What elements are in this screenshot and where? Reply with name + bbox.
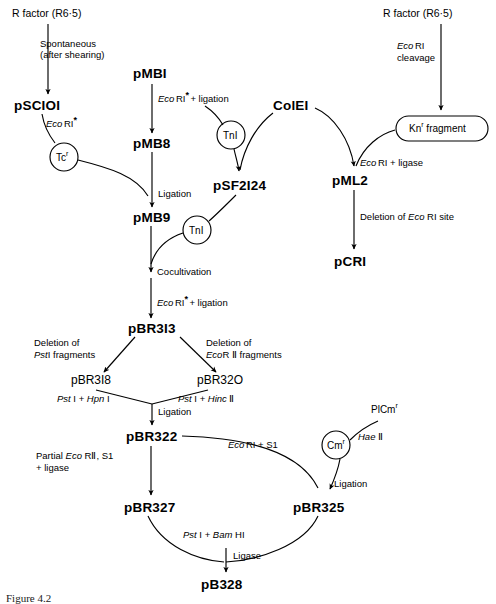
edge-label-ligase-bottom: Ligase — [233, 550, 261, 561]
edge-pbr313-to-pbr318 — [104, 337, 135, 372]
psti-hpn1-hpn: Hpn — [87, 393, 104, 404]
node-pbr325: pBR325 — [293, 500, 345, 515]
node-pml2: pML2 — [332, 173, 368, 188]
edge-label-ecori-star-a: EcoRI* — [46, 115, 77, 128]
partial-ligase: + ligase — [36, 462, 69, 473]
del-ecori-site-eco: Eco — [408, 211, 424, 222]
bubble-tn1-upper-label: TnI — [223, 130, 237, 141]
plcmr-base: PlCm — [371, 404, 395, 415]
edge-label-ecori-star-ligation-2: EcoRI*+ ligation — [157, 294, 228, 307]
node-pmb8: pMB8 — [133, 136, 171, 151]
label-plcmr: PlCmr — [371, 402, 398, 415]
ecori-ligase-eco: Eco — [360, 157, 376, 168]
svg-text:Hae Ⅱ: Hae Ⅱ — [358, 431, 383, 442]
source-r-factor-left: R factor (R6·5) — [12, 7, 81, 19]
ecori-star-c-ri: RI — [175, 297, 185, 308]
edge-label-ecori-cleavage: EcoRI cleavage — [397, 40, 435, 63]
edge-label-ecori-s1: EcoRI + S1 — [228, 439, 278, 450]
ecori-star-a-ri: RI — [64, 118, 74, 129]
psti-bamhi-tail: HI — [232, 529, 244, 540]
node-pb328: pB328 — [201, 577, 243, 592]
svg-text:EcoRI: EcoRI — [397, 40, 424, 51]
node-psc101: pSCIOI — [14, 98, 60, 113]
psti-bamhi-mid: I + — [197, 529, 213, 540]
psti-hinc2-pst: Pst — [178, 393, 192, 404]
node-pmb1: pMBI — [133, 66, 167, 81]
edge-label-spontaneous-line2: (after shearing) — [40, 49, 104, 60]
ecori-star-b-asterisk: * — [185, 90, 189, 100]
node-pmb9: pMB9 — [133, 210, 171, 225]
edge-tn1-lower-to-stem — [151, 233, 183, 264]
hae2-hae: Hae — [358, 431, 375, 442]
svg-text:EcoRI*: EcoRI* — [46, 115, 77, 128]
ecori-star-a-eco: Eco — [46, 118, 62, 129]
partial-eco: Eco — [66, 450, 82, 461]
edge-label-deletion-ecorii: Deletion of EcoR Ⅱ fragments — [206, 337, 282, 360]
ecori-s1-tail: RI + S1 — [246, 439, 278, 450]
hae2-tail: Ⅱ — [375, 431, 383, 442]
node-colei: ColEI — [273, 98, 309, 113]
del-psti-tail: I fragments — [48, 349, 96, 360]
ecori-star-b-tail: + ligation — [190, 93, 228, 104]
edge-label-hae2: Hae Ⅱ — [358, 431, 383, 442]
edge-label-ligation-pmb9: Ligation — [158, 188, 191, 199]
svg-text:EcoRI + S1: EcoRI + S1 — [228, 439, 278, 450]
partial-pre: Partial — [36, 450, 66, 461]
svg-text:Pst I + Hpn I: Pst I + Hpn I — [57, 393, 110, 404]
edge-colei-to-psf2124 — [240, 113, 273, 170]
psti-bamhi-pst: Pst — [183, 529, 197, 540]
del-ecorii-tail: R Ⅱ fragments — [222, 349, 282, 360]
edge-label-psti-hpn1: Pst I + Hpn I — [57, 393, 110, 404]
svg-text:Deletion of Eco RI site: Deletion of Eco RI site — [360, 211, 454, 222]
ecori-s1-eco: Eco — [228, 439, 244, 450]
node-psf2124: pSF2I24 — [213, 178, 266, 193]
psti-hpn1-tail: I — [104, 393, 109, 404]
edge-label-partial-ecorii: Partial Eco RⅡ, S1 + ligase — [36, 450, 113, 473]
edge-label-psti-bamhi: Pst I + Bam HI — [183, 529, 245, 540]
del-ecori-site-pre: Deletion of — [360, 211, 408, 222]
edge-label-ecori-star-ligation: EcoRI*+ ligation — [158, 90, 229, 103]
ecori-star-b-eco: Eco — [158, 93, 174, 104]
svg-text:EcoRI*+ ligation: EcoRI*+ ligation — [158, 90, 229, 103]
svg-text:PstI fragments: PstI fragments — [34, 349, 96, 360]
del-ecori-site-post: RI site — [424, 211, 454, 222]
edge-tcr-to-pmb9 — [78, 160, 148, 196]
svg-text:EcoRI*+ ligation: EcoRI*+ ligation — [157, 294, 228, 307]
svg-text:Pst I + Bam HI: Pst I + Bam HI — [183, 529, 245, 540]
edge-label-deletion-ecori-site: Deletion of Eco RI site — [360, 211, 454, 222]
plcmr-sup: r — [395, 402, 398, 409]
svg-text:Partial Eco RⅡ, S1: Partial Eco RⅡ, S1 — [36, 450, 113, 461]
svg-text:EcoRI + ligase: EcoRI + ligase — [360, 157, 423, 168]
bubble-tn1-lower-label: TnI — [189, 225, 203, 236]
node-pbr320: pBR32O — [197, 373, 243, 387]
ecori-cleavage-word: cleavage — [397, 52, 435, 63]
psti-hpn1-mid: I + — [71, 393, 87, 404]
edge-label-ligation-pbr322: Ligation — [158, 406, 191, 417]
psti-hinc2-tail: Ⅱ — [227, 393, 235, 404]
node-pbr322: pBR322 — [126, 429, 177, 444]
psti-hinc2-mid: I + — [192, 393, 208, 404]
source-r-factor-right: R factor (R6·5) — [383, 7, 452, 19]
ecori-star-a-asterisk: * — [73, 115, 77, 125]
del-psti-line1: Deletion of — [34, 337, 80, 348]
psti-bamhi-bam: Bam — [213, 529, 233, 540]
del-psti-pst: Pst — [34, 349, 48, 360]
ecori-cleavage-ri: RI — [415, 40, 425, 51]
node-pcri: pCRI — [334, 254, 366, 269]
svg-text:EcoR Ⅱ fragments: EcoR Ⅱ fragments — [206, 349, 282, 360]
del-ecorii-eco: Eco — [206, 349, 222, 360]
node-pbr327: pBR327 — [124, 500, 175, 515]
edge-label-ecori-ligase: EcoRI + ligase — [360, 157, 423, 168]
edge-ligationlabel-to-tn1 — [205, 106, 223, 125]
edge-label-ligation-pbr325: Ligation — [334, 478, 367, 489]
edge-label-psti-hinc2: Pst I + Hinc Ⅱ — [178, 393, 235, 404]
ecori-cleavage-eco: Eco — [397, 40, 413, 51]
psti-hpn1-pst: Pst — [57, 393, 71, 404]
ecori-ligase-tail: RI + ligase — [378, 157, 423, 168]
ecori-star-c-asterisk: * — [184, 294, 188, 304]
svg-text:PlCmr: PlCmr — [371, 402, 398, 415]
edge-label-cocultivation: Cocultivation — [157, 266, 211, 277]
node-pbr318: pBR3I8 — [71, 373, 111, 387]
svg-text:Pst I + Hinc Ⅱ: Pst I + Hinc Ⅱ — [178, 393, 235, 404]
